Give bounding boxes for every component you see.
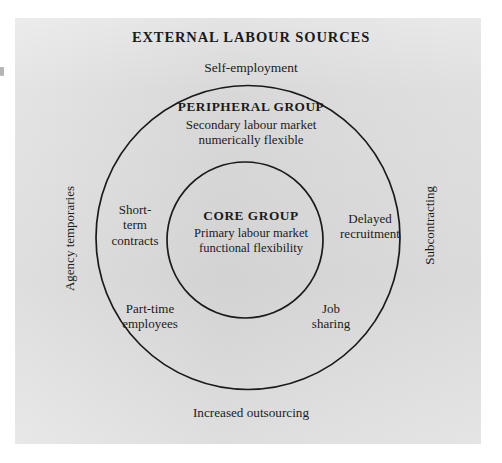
peripheral-group-description: Secondary labour market numerically flex… (0, 117, 502, 148)
label-short-term-contracts: Short- term contracts (96, 202, 174, 248)
label-subcontracting: Subcontracting (422, 186, 438, 265)
diagram-title: EXTERNAL LABOUR SOURCES (0, 29, 502, 46)
label-self-employment: Self-employment (0, 60, 502, 76)
label-increased-outsourcing: Increased outsourcing (0, 405, 502, 421)
diagram-figure: EXTERNAL LABOUR SOURCES Self-employment … (0, 0, 502, 463)
label-agency-temporaries: Agency temporaries (62, 186, 78, 291)
peripheral-group-heading: PERIPHERAL GROUP (0, 99, 502, 115)
label-job-sharing: Job sharing (294, 301, 368, 332)
label-part-time-employees: Part-time employees (104, 301, 196, 332)
label-delayed-recruitment: Delayed recruitment (324, 211, 416, 242)
